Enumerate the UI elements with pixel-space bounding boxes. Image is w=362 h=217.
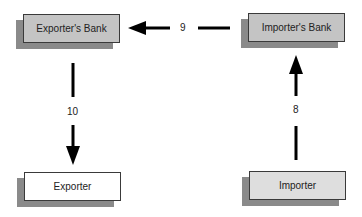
node-importers-bank: Importer's Bank — [248, 13, 345, 42]
edge-label-8: 8 — [293, 104, 299, 115]
edge-label-9: 9 — [180, 22, 186, 33]
node-label: Exporter's Bank — [23, 14, 120, 43]
node-exporters-bank: Exporter's Bank — [23, 14, 120, 43]
edge-label-10: 10 — [67, 106, 78, 117]
node-label: Importer — [249, 171, 346, 200]
node-label: Exporter — [24, 172, 121, 201]
arrow-9 — [128, 21, 230, 35]
node-label: Importer's Bank — [248, 13, 345, 42]
node-exporter: Exporter — [24, 172, 121, 201]
node-importer: Importer — [249, 171, 346, 200]
